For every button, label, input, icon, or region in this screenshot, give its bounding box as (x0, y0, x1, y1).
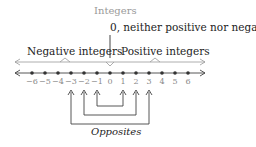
tick-label: −4 (52, 78, 64, 86)
tick-label: −2 (78, 78, 90, 86)
tick-label: 3 (146, 78, 151, 86)
range-line (15, 58, 205, 66)
tick-label: 1 (120, 78, 125, 86)
tick-label: −3 (65, 78, 77, 86)
tick-label: 0 (107, 78, 112, 86)
zero-label: 0, neither positive nor negative (110, 22, 256, 33)
positive-integers-label: Positive integers (121, 46, 210, 57)
negative-integers-label: Negative integers (27, 46, 122, 57)
tick-label: −5 (39, 78, 51, 86)
tick-label: 2 (133, 78, 138, 86)
diagram-title: Integers (94, 6, 137, 16)
tick-label: −6 (26, 78, 38, 86)
opposites-connectors (68, 90, 152, 124)
tick-label: 6 (185, 78, 190, 86)
opposites-label: Opposites (91, 127, 141, 137)
tick-label: 5 (172, 78, 177, 86)
tick-label: 4 (159, 78, 164, 86)
tick-label: −1 (91, 78, 103, 86)
